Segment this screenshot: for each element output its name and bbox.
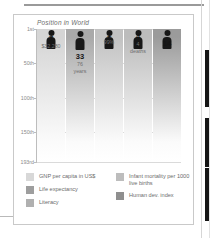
bar-rank: 7: [41, 34, 60, 43]
legend-label: Human dev. index: [129, 192, 174, 199]
bar-rank: 33: [74, 52, 87, 61]
legend-item[interactable]: Literacy: [26, 199, 104, 207]
legend-swatch: [26, 199, 34, 207]
bar-rank: 4: [130, 32, 146, 41]
legend-label: GNP per capita in US$: [39, 173, 95, 180]
person-icon: [76, 31, 85, 50]
y-tick-mark: [34, 162, 37, 163]
gridline: [37, 162, 181, 163]
bar-column[interactable]: 7$32,280: [37, 29, 65, 162]
bar-column[interactable]: 44deaths: [124, 29, 152, 162]
bar-detail: 99%: [104, 39, 115, 46]
legend-column-left: GNP per capita in US$Life expectancyLite…: [26, 173, 104, 212]
bar-value-label: 3376years: [74, 52, 87, 75]
chart-figure: Position in World 1st50th100th150th193rd…: [13, 14, 194, 225]
bar-value-label: 14: [163, 39, 171, 48]
legend-swatch: [116, 173, 124, 181]
legend-item[interactable]: Human dev. index: [116, 192, 196, 200]
scroll-mark[interactable]: [205, 50, 209, 107]
bar-rank: 1: [104, 30, 115, 39]
plot-area: 1st50th100th150th193rd 7$32,2803376years…: [37, 29, 181, 162]
y-tick-label: 100th: [21, 95, 34, 101]
y-tick-label: 150th: [21, 129, 34, 135]
page-edge-line-outer: [209, 0, 210, 238]
bar-column[interactable]: 3376years: [66, 29, 94, 162]
legend-item[interactable]: GNP per capita in US$: [26, 173, 104, 181]
scroll-mark[interactable]: [205, 118, 209, 167]
scroll-mark[interactable]: [205, 168, 209, 221]
bar-detail-unit: years: [74, 68, 87, 75]
bar-detail: $32,280: [41, 43, 60, 50]
bar-value-label: 199%: [104, 30, 115, 46]
bar-detail: 4: [130, 41, 146, 48]
bar-detail: 76: [74, 61, 87, 68]
y-tick-label: 1st: [27, 26, 34, 32]
legend-item[interactable]: Life expectancy: [26, 186, 104, 194]
legend-swatch: [26, 186, 34, 194]
bar-value-label: 7$32,280: [41, 34, 60, 50]
y-tick-label: 193rd: [20, 159, 34, 165]
legend-item[interactable]: Infant mortality per 1000 live births: [116, 173, 196, 187]
page-canvas: Position in World 1st50th100th150th193rd…: [0, 0, 215, 238]
legend-label: Literacy: [39, 199, 59, 206]
legend-label: Infant mortality per 1000 live births: [129, 173, 196, 187]
legend-column-right: Infant mortality per 1000 live birthsHum…: [116, 173, 196, 205]
legend-label: Life expectancy: [39, 186, 78, 193]
chart-title: Position in World: [37, 19, 89, 26]
person-head-icon: [77, 31, 83, 37]
y-tick-label: 50th: [24, 60, 34, 66]
bar-column[interactable]: 199%: [95, 29, 123, 162]
legend-swatch: [26, 173, 34, 181]
bar-column[interactable]: 14: [153, 29, 181, 162]
person-body-icon: [76, 38, 85, 50]
page-edge-line: [201, 0, 202, 238]
bar-rank: 14: [163, 39, 171, 48]
legend-swatch: [116, 192, 124, 200]
person-head-icon: [164, 30, 170, 36]
bar-value-label: 44deaths: [130, 32, 146, 55]
bar-detail-unit: deaths: [130, 48, 146, 55]
page-top-rule: [24, 4, 204, 6]
